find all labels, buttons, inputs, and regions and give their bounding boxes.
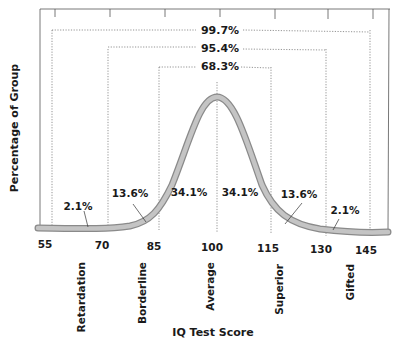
category-retardation: Retardation [75,262,87,332]
tick-85: 85 [147,240,162,252]
bracket-label-95-4: 95.4% [201,42,239,55]
category-gifted: Gifted [344,264,356,300]
bell-curve-chart: 99.7% 95.4% 68.3% 2.1% 13.6% 34.1% 34.1%… [0,0,394,344]
category-borderline: Borderline [136,262,148,324]
segment-label-85-100: 34.1% [171,186,208,198]
category-average: Average [204,262,216,311]
category-superior: Superior [273,263,285,315]
x-axis-title: IQ Test Score [172,326,253,339]
tick-70: 70 [95,239,110,251]
segment-label-115-130: 13.6% [281,188,318,200]
tick-100: 100 [201,241,223,253]
tick-115: 115 [257,242,279,254]
bracket-label-68-3: 68.3% [201,60,239,73]
tick-130: 130 [310,243,332,255]
y-axis-title: Percentage of Group [8,64,21,193]
segment-label-130-145: 2.1% [330,204,360,216]
segment-label-55-70: 2.1% [63,200,93,212]
x-tick-labels: 55 70 85 100 115 130 145 [38,238,377,256]
bracket-label-99-7: 99.7% [201,24,239,37]
tick-55: 55 [38,238,53,250]
segment-label-100-115: 34.1% [222,186,259,198]
top-tick-marks [55,9,373,19]
tick-145: 145 [355,244,377,256]
segment-label-70-85: 13.6% [112,187,149,199]
category-labels: Retardation Borderline Average Superior … [75,262,356,332]
